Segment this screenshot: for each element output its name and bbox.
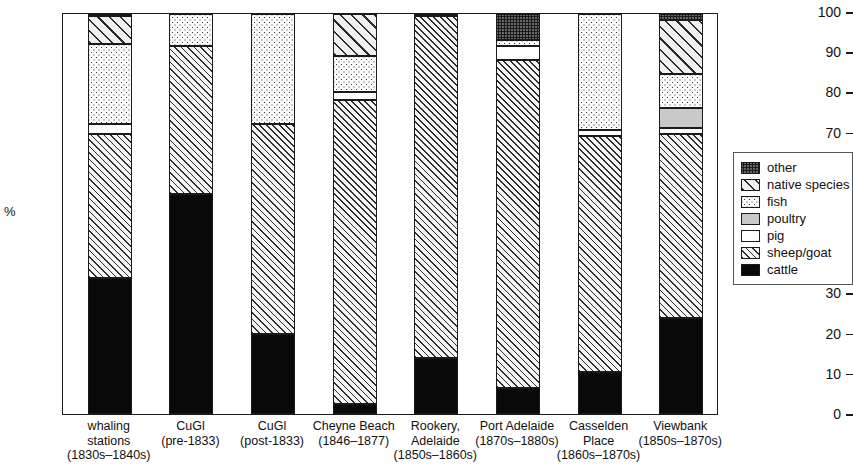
bar bbox=[659, 14, 703, 414]
bar-segment-other bbox=[414, 14, 458, 16]
bar bbox=[251, 14, 295, 414]
x-axis-label-line: (1860s–1870s) bbox=[539, 448, 659, 463]
legend-label: pig bbox=[767, 228, 784, 243]
y-axis-tick-label: 80 bbox=[825, 84, 841, 100]
y-axis-tick-label: 20 bbox=[825, 326, 841, 342]
bar-segment-other bbox=[496, 14, 540, 40]
legend-item-pig: pig bbox=[741, 227, 847, 244]
y-axis-label: % bbox=[4, 204, 16, 219]
legend-label: fish bbox=[767, 194, 787, 209]
x-axis-label-line: (1850s–1860s) bbox=[375, 448, 495, 463]
bar-segment-native-species bbox=[88, 16, 132, 44]
bar-segment-fish bbox=[88, 44, 132, 124]
legend-item-fish: fish bbox=[741, 193, 847, 210]
bar-segment-sheep-goat bbox=[659, 134, 703, 318]
x-axis-label-line: Viewbank bbox=[620, 419, 740, 434]
bar-segment-sheep-goat bbox=[496, 60, 540, 388]
y-axis-tick-mark bbox=[846, 334, 853, 336]
bar-segment-fish bbox=[659, 74, 703, 108]
bar-segment-sheep-goat bbox=[333, 100, 377, 404]
bar-segment-pig bbox=[578, 130, 622, 136]
bar-segment-sheep-goat bbox=[169, 46, 213, 194]
bar-segment-sheep-goat bbox=[578, 136, 622, 372]
legend-swatch-icon bbox=[741, 230, 760, 242]
bar-segment-cattle bbox=[496, 388, 540, 414]
legend-label: cattle bbox=[767, 262, 798, 277]
legend-swatch-icon bbox=[741, 247, 760, 259]
y-axis-tick-mark bbox=[846, 293, 853, 295]
bar-segment-sheep-goat bbox=[251, 124, 295, 334]
bar-segment-fish bbox=[496, 40, 540, 46]
bar-segment-native-species bbox=[333, 14, 377, 56]
y-axis-tick-mark bbox=[846, 52, 853, 54]
y-axis-tick-label: 100 bbox=[818, 4, 841, 20]
bar-segment-cattle bbox=[659, 318, 703, 414]
bar bbox=[169, 14, 213, 414]
bar-segment-pig bbox=[496, 46, 540, 60]
x-axis-label-line: (1830s–1840s) bbox=[49, 448, 169, 463]
legend-swatch-icon bbox=[741, 179, 760, 191]
bar-segment-poultry bbox=[659, 108, 703, 128]
bar-segment-pig bbox=[333, 92, 377, 100]
bar-segment-fish bbox=[169, 14, 213, 46]
bar-segment-pig bbox=[659, 128, 703, 134]
bar-segment-sheep-goat bbox=[88, 134, 132, 278]
legend-item-sheep-goat: sheep/goat bbox=[741, 244, 847, 261]
legend-rows: othernative speciesfishpoultrypigsheep/g… bbox=[741, 159, 847, 278]
legend-swatch-icon bbox=[741, 162, 760, 174]
legend-label: native species bbox=[767, 177, 849, 192]
bar-segment-sheep-goat bbox=[414, 16, 458, 358]
bar-segment-cattle bbox=[169, 194, 213, 414]
bar bbox=[578, 14, 622, 414]
y-axis-tick-label: 10 bbox=[825, 366, 841, 382]
legend-label: sheep/goat bbox=[767, 245, 831, 260]
bar-segment-cattle bbox=[333, 404, 377, 414]
legend-item-other: other bbox=[741, 159, 847, 176]
legend-swatch-icon bbox=[741, 264, 760, 276]
bar-segment-fish bbox=[251, 14, 295, 124]
bar bbox=[333, 14, 377, 414]
legend: othernative speciesfishpoultrypigsheep/g… bbox=[733, 152, 853, 285]
legend-label: other bbox=[767, 160, 797, 175]
legend-item-native-species: native species bbox=[741, 176, 847, 193]
bar-segment-cattle bbox=[578, 372, 622, 414]
y-axis-tick-mark bbox=[846, 92, 853, 94]
plot-area bbox=[62, 13, 718, 415]
bar-segment-other bbox=[88, 14, 132, 16]
legend-item-cattle: cattle bbox=[741, 261, 847, 278]
legend-label: poultry bbox=[767, 211, 806, 226]
y-axis-tick-label: 70 bbox=[825, 125, 841, 141]
bar bbox=[496, 14, 540, 414]
legend-swatch-icon bbox=[741, 196, 760, 208]
bar-segment-cattle bbox=[414, 358, 458, 414]
y-axis-tick-mark bbox=[846, 133, 853, 135]
legend-swatch-icon bbox=[741, 213, 760, 225]
y-axis-tick-label: 90 bbox=[825, 44, 841, 60]
bar bbox=[88, 14, 132, 414]
bar-segment-cattle bbox=[88, 278, 132, 414]
y-axis-tick-mark bbox=[846, 414, 853, 416]
bar-segment-cattle bbox=[251, 334, 295, 414]
stacked-bar-chart: % 1009080706050403020100 whalingstations… bbox=[0, 0, 853, 467]
y-axis-tick-label: 0 bbox=[833, 406, 841, 422]
y-axis-tick-mark bbox=[846, 12, 853, 14]
legend-item-poultry: poultry bbox=[741, 210, 847, 227]
bar-segment-fish bbox=[578, 14, 622, 130]
bar-segment-native-species bbox=[659, 20, 703, 74]
bar-segment-fish bbox=[333, 56, 377, 92]
y-axis-tick-label: 30 bbox=[825, 285, 841, 301]
y-axis-tick-mark bbox=[846, 374, 853, 376]
bar-segment-other bbox=[659, 14, 703, 20]
x-axis-label: Viewbank(1850s–1870s) bbox=[620, 419, 740, 448]
x-axis-label-line: (1850s–1870s) bbox=[620, 434, 740, 449]
bar-segment-pig bbox=[88, 124, 132, 134]
bar bbox=[414, 14, 458, 414]
